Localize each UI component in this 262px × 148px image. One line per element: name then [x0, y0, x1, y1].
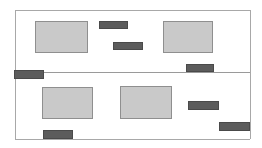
bar-mid-right [188, 101, 219, 110]
block-top-right [163, 21, 213, 53]
frame-right-border [250, 10, 251, 139]
bar-divider-left [14, 70, 44, 79]
frame-bottom-border [15, 139, 250, 140]
panel-divider [15, 72, 250, 73]
block-bottom-left [42, 87, 93, 119]
bar-baseline-left [43, 130, 73, 139]
frame-top-border [15, 10, 250, 11]
bar-top-lower [113, 42, 143, 50]
bar-far-right [219, 122, 250, 131]
block-bottom-center [120, 86, 172, 119]
bar-divider-right [186, 64, 214, 72]
bar-top-upper [99, 21, 128, 29]
diagram-canvas [0, 0, 262, 148]
block-top-left [35, 21, 88, 53]
